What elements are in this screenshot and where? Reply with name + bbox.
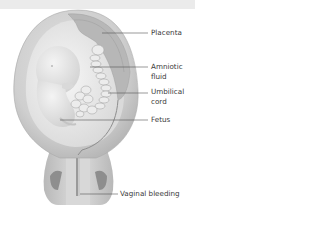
label-umbilical-cord: Umbilical cord — [151, 87, 184, 106]
label-amniotic-line2: fluid — [151, 72, 183, 82]
label-placenta: Placenta — [151, 28, 182, 38]
label-umbilical-line1: Umbilical — [151, 87, 184, 97]
label-fetus: Fetus — [151, 115, 170, 125]
label-umbilical-line2: cord — [151, 97, 184, 107]
label-amniotic-line1: Amniotic — [151, 62, 183, 72]
label-vaginal-bleeding-text: Vaginal bleeding — [120, 189, 180, 198]
label-placenta-text: Placenta — [151, 28, 182, 37]
label-amniotic-fluid: Amniotic fluid — [151, 62, 183, 81]
label-vaginal-bleeding: Vaginal bleeding — [120, 189, 180, 199]
label-fetus-text: Fetus — [151, 115, 170, 124]
